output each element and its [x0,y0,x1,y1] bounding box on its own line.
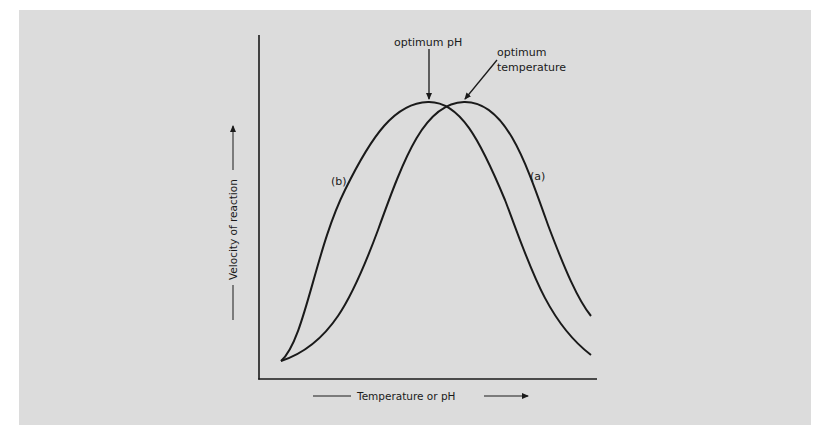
optimum-ph-label: optimum pH [394,36,462,49]
enzyme-activity-chart: optimum pH optimum temperature (b) (a) T… [0,0,829,434]
curve-a-label: (a) [530,170,545,183]
optimum-temperature-arrow [465,60,497,99]
optimum-temperature-label-line1: optimum [497,46,546,59]
curve-b-ph [281,102,591,361]
optimum-temperature-label-line2: temperature [497,61,566,74]
x-axis-label: Temperature or pH [356,390,456,402]
y-axis-label: Velocity of reaction [227,179,239,280]
curve-b-label: (b) [331,175,347,188]
